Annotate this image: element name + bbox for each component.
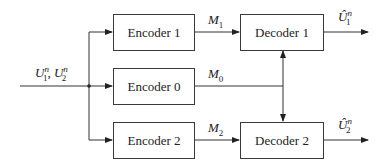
encoder-2-block: Encoder 2 [113, 122, 195, 159]
output-1-label: Ûn1 [338, 8, 350, 27]
m1-label: M1 [208, 12, 223, 30]
decoder-1-block: Decoder 1 [240, 14, 324, 51]
output-2-label: Ûn2 [338, 116, 350, 135]
encoder-1-block: Encoder 1 [113, 14, 195, 51]
m2-label: M2 [208, 120, 223, 138]
decoder-2-block: Decoder 2 [240, 122, 324, 159]
input-signal-label: Un1, Un2 [35, 64, 66, 83]
encoder-0-block: Encoder 0 [113, 68, 195, 105]
m0-label: M0 [208, 66, 223, 84]
